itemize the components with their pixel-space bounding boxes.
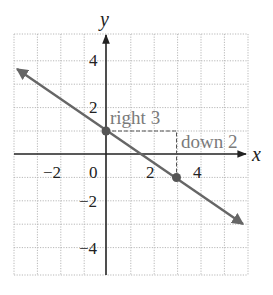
y-axis-label: y xyxy=(98,8,109,31)
x-tick-label: −2 xyxy=(43,163,61,182)
rise-label: down 2 xyxy=(181,131,237,152)
y-tick-label: −4 xyxy=(79,239,98,258)
run-label: right 3 xyxy=(110,107,160,128)
y-tick-label: 2 xyxy=(89,98,98,117)
point-3-neg1 xyxy=(172,173,181,182)
x-axis-label: x xyxy=(251,143,261,165)
y-tick-label: −2 xyxy=(79,192,97,211)
x-tick-label: 0 xyxy=(89,163,98,182)
y-tick-label: 4 xyxy=(89,51,98,70)
coordinate-plane: x y −2 0 2 4 4 2 −2 −4 right 3 down 2 xyxy=(0,0,273,295)
x-tick-label: 4 xyxy=(193,163,202,182)
x-tick-label: 2 xyxy=(146,163,155,182)
point-y-intercept xyxy=(102,127,111,136)
